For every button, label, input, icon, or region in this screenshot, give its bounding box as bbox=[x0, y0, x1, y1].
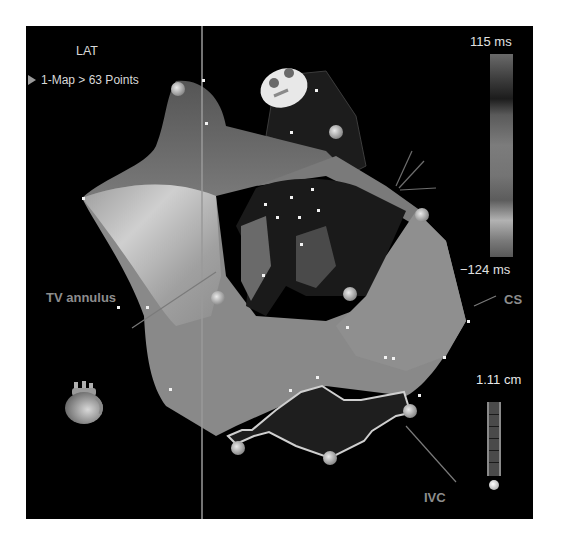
annotation-cs: CS bbox=[504, 292, 522, 307]
map-breadcrumb-text[interactable]: 1-Map > 63 Points bbox=[41, 73, 139, 87]
scale-label: 1.11 cm bbox=[476, 372, 521, 387]
heart-orientation-icon[interactable] bbox=[56, 378, 108, 430]
play-triangle-icon[interactable] bbox=[28, 75, 36, 85]
annotation-tv-annulus: TV annulus bbox=[46, 290, 116, 305]
annotation-ivc: IVC bbox=[424, 490, 446, 505]
map-viewport[interactable]: LAT 1-Map > 63 Points 115 ms −124 ms 1.1… bbox=[26, 26, 533, 519]
scale-knob[interactable] bbox=[489, 480, 499, 490]
marker-dot bbox=[269, 78, 279, 88]
scale-bar bbox=[487, 402, 501, 476]
map-type-label: LAT bbox=[76, 44, 98, 58]
3d-anatomy-map[interactable] bbox=[26, 26, 533, 519]
map-breadcrumb[interactable]: 1-Map > 63 Points bbox=[28, 73, 139, 87]
catheter-spokes bbox=[396, 151, 436, 190]
colorbar-min-label: −124 ms bbox=[460, 262, 510, 277]
marker-dot bbox=[284, 68, 294, 78]
colorbar-max-label: 115 ms bbox=[470, 34, 512, 49]
lat-colorbar[interactable] bbox=[490, 54, 513, 257]
